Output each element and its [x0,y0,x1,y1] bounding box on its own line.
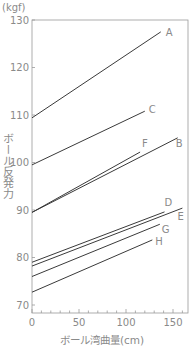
series-label-g: G [162,224,170,235]
chart-canvas: 708090100110120130050100150(kgf)ACFBDEGH [0,0,194,349]
plot-frame [32,20,188,313]
x-tick-label: 0 [29,317,35,328]
series-label-b: B [176,138,183,149]
series-line-g [32,224,160,276]
y-unit-label: (kgf) [2,2,26,13]
series-label-h: H [155,236,163,247]
series-label-e: E [177,211,183,222]
series-label-c: C [149,104,156,115]
series-line-c [32,111,145,165]
x-tick-label: 50 [73,317,86,328]
y-tick-label: 130 [10,15,29,26]
y-tick-label: 80 [16,252,29,263]
y-tick-label: 70 [16,300,29,311]
series-label-f: F [142,138,148,149]
y-tick-label: 90 [16,205,29,216]
series-line-a [32,32,161,118]
series-label-d: D [165,197,173,208]
series-line-b [32,138,178,213]
series-line-h [32,240,152,292]
x-tick-label: 100 [116,317,135,328]
y-tick-label: 120 [10,62,29,73]
series-line-d [32,212,165,262]
y-axis-label: ボール反発力 [1,133,13,199]
x-axis-label: ボール湾曲量(cm) [60,332,144,347]
x-tick-label: 150 [163,317,182,328]
y-tick-label: 110 [10,110,29,121]
series-label-a: A [166,27,173,38]
series-line-f [32,152,140,212]
